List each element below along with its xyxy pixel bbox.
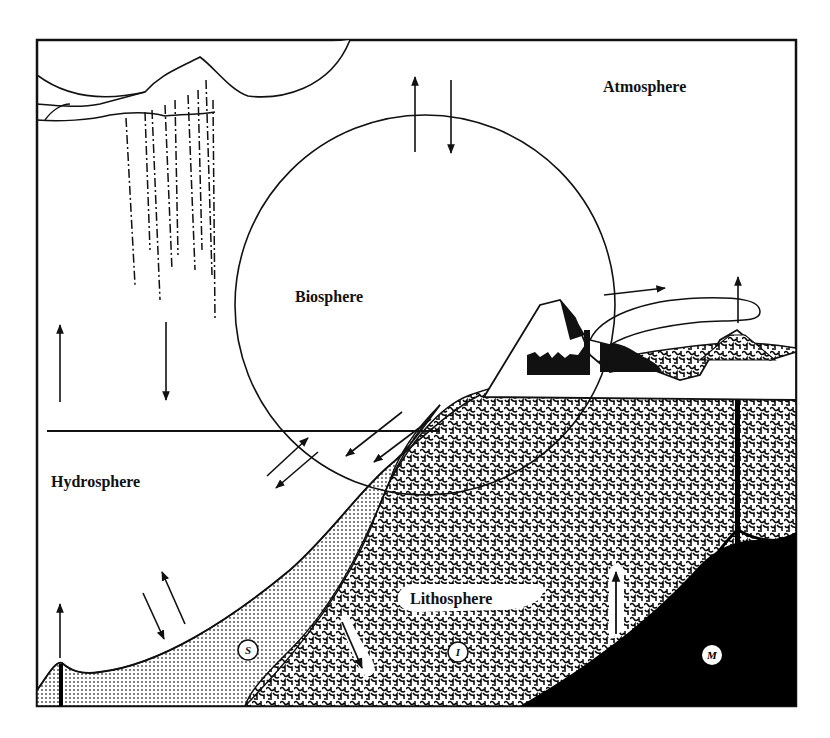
biosphere-label: Biosphere [295,288,363,306]
igneous-marker: I [448,642,468,662]
sediment-marker-text: S [245,644,251,656]
lithosphere-label: Lithosphere [410,590,492,608]
hydrosphere-label: Hydrosphere [51,473,140,491]
sediment-marker: S [238,640,258,660]
mantle-marker-text: M [706,649,718,661]
factory-chimney [584,330,590,375]
atmosphere-label: Atmosphere [603,78,686,96]
earth-spheres-diagram: S I M Atmosphere Biosphere Hydrosphere L… [0,0,830,738]
mantle-marker: M [702,645,722,665]
igneous-marker-text: I [455,646,461,658]
seafloor-vent [59,664,63,706]
